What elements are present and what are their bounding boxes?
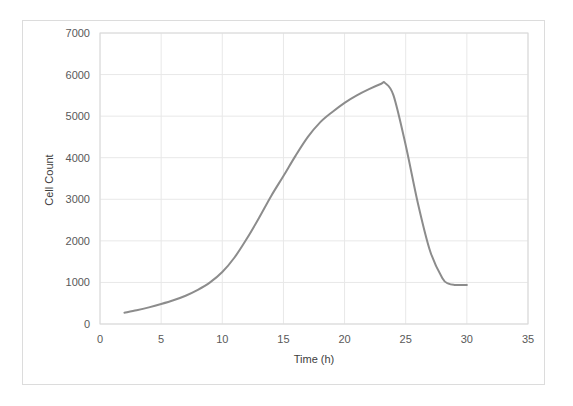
y-axis-title: Cell Count — [43, 154, 55, 205]
y-axis-tick-label: 4000 — [66, 152, 90, 164]
grid-lines — [100, 33, 528, 324]
plot-area-border — [100, 33, 528, 324]
y-axis-tick-labels: 01000200030004000500060007000 — [66, 27, 90, 330]
x-axis-title: Time (h) — [294, 353, 335, 365]
x-axis-tick-label: 25 — [400, 333, 412, 345]
y-axis-tick-label: 3000 — [66, 193, 90, 205]
x-axis-tick-label: 0 — [97, 333, 103, 345]
x-axis-tick-label: 20 — [338, 333, 350, 345]
y-axis-tick-label: 5000 — [66, 110, 90, 122]
y-axis-tick-label: 0 — [84, 318, 90, 330]
x-axis-tick-label: 5 — [158, 333, 164, 345]
x-axis-tick-label: 30 — [461, 333, 473, 345]
y-axis-tick-label: 6000 — [66, 69, 90, 81]
cell-count-line-chart: 01000200030004000500060007000 0510152025… — [0, 0, 573, 406]
y-axis-tick-label: 2000 — [66, 235, 90, 247]
y-axis-tick-label: 7000 — [66, 27, 90, 39]
plot-border-rect — [100, 33, 528, 324]
y-axis-tick-label: 1000 — [66, 276, 90, 288]
x-axis-tick-label: 10 — [216, 333, 228, 345]
x-axis-tick-label: 35 — [522, 333, 534, 345]
x-axis-tick-labels: 05101520253035 — [97, 333, 534, 345]
x-axis-tick-label: 15 — [277, 333, 289, 345]
